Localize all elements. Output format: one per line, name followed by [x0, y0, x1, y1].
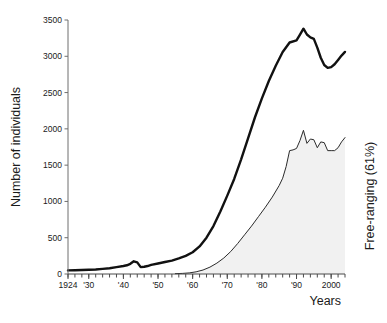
x-tick-label: '30 — [83, 280, 94, 290]
x-tick-label: '40 — [118, 280, 129, 290]
y-tick-label: 2500 — [43, 88, 62, 98]
x-tick-label: '90 — [291, 280, 302, 290]
x-tick-label: '60 — [187, 280, 198, 290]
x-tick-label: 1924 — [59, 280, 78, 290]
y-tick-label: 0 — [57, 269, 62, 279]
y-tick-label: 1000 — [43, 196, 62, 206]
free-ranging-area — [175, 130, 345, 274]
population-line-chart: 0500100015002000250030003500 1924'30'40'… — [0, 0, 387, 323]
x-tick-label: '50 — [152, 280, 163, 290]
y-tick-label: 500 — [48, 233, 62, 243]
x-tick-label: 2000 — [322, 280, 341, 290]
y-axis-title: Number of individuals — [9, 87, 23, 207]
y-tick-label: 3500 — [43, 15, 62, 25]
free-ranging-label: Free-ranging (61%) — [363, 142, 377, 250]
chart-container: 0500100015002000250030003500 1924'30'40'… — [0, 0, 387, 323]
x-axis-title: Years — [309, 294, 341, 308]
y-axis: 0500100015002000250030003500 — [43, 15, 68, 279]
y-tick-label: 1500 — [43, 160, 62, 170]
x-tick-label: '80 — [256, 280, 267, 290]
x-tick-label: '70 — [222, 280, 233, 290]
x-axis: 1924'30'40'50'60'70'80'902000 — [59, 274, 345, 290]
y-tick-label: 2000 — [43, 124, 62, 134]
y-tick-label: 3000 — [43, 51, 62, 61]
plot-area — [68, 29, 345, 274]
